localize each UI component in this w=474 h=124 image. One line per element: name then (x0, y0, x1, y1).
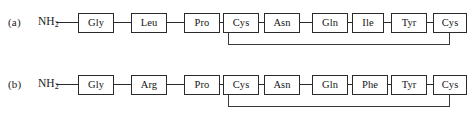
residue-box: Pro (184, 75, 220, 95)
residue-box: Ile (352, 13, 384, 33)
residue-box: Asn (264, 13, 300, 33)
peptide-bond-connector (300, 22, 312, 23)
peptide-bond-connector (300, 84, 312, 85)
residue-box: Phe (352, 75, 388, 95)
disulfide-bridge-span (228, 106, 449, 107)
residue-box: Cys (433, 75, 467, 95)
peptide-sequence-figure: (a) NH2 GlyLeuProCysAsnGlnIleTyrCys (b) … (0, 0, 474, 124)
residue-box: Tyr (391, 13, 427, 33)
peptide-bond-connector (384, 22, 391, 23)
terminus-connector-line (56, 22, 78, 23)
residue-box: Arg (131, 75, 167, 95)
disulfide-bridge-right-stem (449, 33, 450, 45)
peptide-bond-connector (114, 22, 131, 23)
peptide-chain-panel-b: (b) NH2 GlyArgProCysAsnGlnPheTyrCys (0, 62, 474, 124)
residue-box: Gln (312, 13, 348, 33)
residue-box: Gly (78, 75, 114, 95)
peptide-chain-panel-a: (a) NH2 GlyLeuProCysAsnGlnIleTyrCys (0, 0, 474, 62)
residue-track-b: GlyArgProCysAsnGlnPheTyrCys (0, 62, 474, 124)
disulfide-bridge-right-stem (449, 95, 450, 107)
residue-box: Cys (223, 75, 259, 95)
disulfide-bridge-left-stem (228, 95, 229, 106)
disulfide-bridge-span (228, 44, 449, 45)
residue-track-a: GlyLeuProCysAsnGlnIleTyrCys (0, 0, 474, 62)
residue-box: Leu (131, 13, 167, 33)
residue-box: Cys (433, 13, 467, 33)
peptide-bond-connector (167, 22, 184, 23)
disulfide-bridge-left-stem (228, 33, 229, 44)
residue-box: Cys (223, 13, 259, 33)
residue-box: Gly (78, 13, 114, 33)
terminus-connector-line (56, 84, 78, 85)
residue-box: Gln (312, 75, 348, 95)
peptide-bond-connector (167, 84, 184, 85)
residue-box: Tyr (391, 75, 427, 95)
peptide-bond-connector (114, 84, 131, 85)
residue-box: Asn (264, 75, 300, 95)
residue-box: Pro (184, 13, 220, 33)
